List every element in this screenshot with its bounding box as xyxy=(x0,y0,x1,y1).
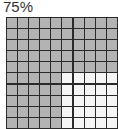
waffle-cell-filled xyxy=(40,40,50,50)
waffle-cell-filled xyxy=(62,62,72,72)
waffle-cell-filled xyxy=(51,85,61,95)
waffle-cell-filled xyxy=(29,118,39,128)
waffle-cell-filled xyxy=(29,96,39,106)
waffle-cell-empty xyxy=(96,73,106,83)
waffle-cell-empty xyxy=(96,118,106,128)
waffle-cell-filled xyxy=(96,62,106,72)
waffle-cell-filled xyxy=(51,18,61,28)
waffle-cell-empty xyxy=(96,96,106,106)
waffle-cell-filled xyxy=(85,62,95,72)
waffle-cell-filled xyxy=(7,18,17,28)
waffle-cell-filled xyxy=(29,62,39,72)
waffle-cell-filled xyxy=(40,29,50,39)
waffle-cell-filled xyxy=(40,51,50,61)
waffle-cell-filled xyxy=(51,73,61,83)
waffle-cell-filled xyxy=(7,85,17,95)
waffle-cell-filled xyxy=(29,51,39,61)
waffle-cell-filled xyxy=(51,118,61,128)
waffle-cell-filled xyxy=(18,73,28,83)
waffle-cell-filled xyxy=(51,62,61,72)
waffle-cell-filled xyxy=(85,29,95,39)
waffle-cell-filled xyxy=(18,18,28,28)
waffle-cell-filled xyxy=(107,18,117,28)
waffle-cell-filled xyxy=(40,118,50,128)
waffle-cell-filled xyxy=(51,51,61,61)
waffle-cell-empty xyxy=(74,107,84,117)
waffle-cell-filled xyxy=(74,18,84,28)
waffle-cell-filled xyxy=(96,29,106,39)
waffle-cell-filled xyxy=(40,85,50,95)
waffle-cell-filled xyxy=(7,96,17,106)
waffle-cell-filled xyxy=(29,29,39,39)
waffle-cell-filled xyxy=(107,62,117,72)
waffle-cell-filled xyxy=(51,96,61,106)
waffle-cell-filled xyxy=(29,18,39,28)
waffle-cell-empty xyxy=(74,85,84,95)
waffle-cell-filled xyxy=(40,107,50,117)
waffle-cell-filled xyxy=(18,107,28,117)
waffle-cell-filled xyxy=(74,29,84,39)
waffle-cell-filled xyxy=(29,40,39,50)
waffle-cell-filled xyxy=(74,62,84,72)
waffle-grid xyxy=(6,17,118,129)
chart-title: 75% xyxy=(3,0,33,15)
waffle-cell-filled xyxy=(96,18,106,28)
waffle-cell-empty xyxy=(107,73,117,83)
waffle-cell-filled xyxy=(7,40,17,50)
waffle-cell-filled xyxy=(29,73,39,83)
waffle-cell-empty xyxy=(85,73,95,83)
waffle-cell-empty xyxy=(74,73,84,83)
waffle-cell-filled xyxy=(7,118,17,128)
waffle-cell-empty xyxy=(74,118,84,128)
waffle-cell-filled xyxy=(40,62,50,72)
waffle-cell-empty xyxy=(85,107,95,117)
waffle-cell-filled xyxy=(96,40,106,50)
waffle-cell-filled xyxy=(40,96,50,106)
waffle-cell-empty xyxy=(107,107,117,117)
waffle-cell-filled xyxy=(51,40,61,50)
waffle-cell-empty xyxy=(62,73,72,83)
waffle-cell-empty xyxy=(107,96,117,106)
waffle-cell-filled xyxy=(62,18,72,28)
waffle-cell-filled xyxy=(107,29,117,39)
waffle-cell-empty xyxy=(107,118,117,128)
waffle-cell-filled xyxy=(18,62,28,72)
waffle-cell-empty xyxy=(62,107,72,117)
waffle-cell-filled xyxy=(18,118,28,128)
waffle-cell-filled xyxy=(29,85,39,95)
waffle-cell-filled xyxy=(18,96,28,106)
waffle-cell-filled xyxy=(74,51,84,61)
waffle-cell-filled xyxy=(18,51,28,61)
waffle-cell-filled xyxy=(85,18,95,28)
waffle-cell-filled xyxy=(40,73,50,83)
waffle-cell-empty xyxy=(85,118,95,128)
waffle-cell-filled xyxy=(107,40,117,50)
waffle-cell-filled xyxy=(29,107,39,117)
waffle-cell-filled xyxy=(18,40,28,50)
waffle-cell-filled xyxy=(62,40,72,50)
waffle-cell-filled xyxy=(7,73,17,83)
waffle-cell-empty xyxy=(62,96,72,106)
waffle-cell-empty xyxy=(96,107,106,117)
waffle-cell-filled xyxy=(7,107,17,117)
waffle-cell-filled xyxy=(18,85,28,95)
waffle-cell-empty xyxy=(62,118,72,128)
waffle-cell-filled xyxy=(7,62,17,72)
waffle-cell-filled xyxy=(96,51,106,61)
waffle-cell-filled xyxy=(51,29,61,39)
waffle-cell-empty xyxy=(107,85,117,95)
waffle-cell-empty xyxy=(62,85,72,95)
waffle-cell-filled xyxy=(7,29,17,39)
waffle-cell-filled xyxy=(7,51,17,61)
waffle-cell-filled xyxy=(107,51,117,61)
waffle-cell-filled xyxy=(40,18,50,28)
waffle-cell-empty xyxy=(96,85,106,95)
waffle-cell-empty xyxy=(85,85,95,95)
waffle-cell-filled xyxy=(62,51,72,61)
waffle-cell-filled xyxy=(18,29,28,39)
waffle-cell-filled xyxy=(62,29,72,39)
waffle-cell-filled xyxy=(85,51,95,61)
waffle-cell-filled xyxy=(85,40,95,50)
waffle-cell-filled xyxy=(74,40,84,50)
waffle-cell-empty xyxy=(74,96,84,106)
